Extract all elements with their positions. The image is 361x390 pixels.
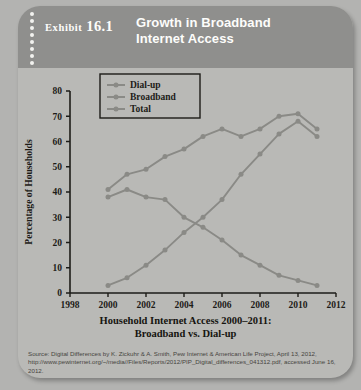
page-title: Growth in Broadband Internet Access <box>136 15 341 47</box>
series-line <box>108 114 317 190</box>
exhibit-label: Exhibit 16.1 <box>45 18 113 35</box>
y-tick-label: 20 <box>53 238 63 248</box>
chart-legend: Dial-upBroadbandTotal <box>100 74 200 118</box>
caption-line-1: Household Internet Access 2000–2011: <box>18 314 353 327</box>
exhibit-header: Exhibit 16.1 Growth in Broadband Interne… <box>18 6 353 68</box>
x-tick-label: 2012 <box>327 300 346 310</box>
exhibit-card: Exhibit 16.1 Growth in Broadband Interne… <box>18 6 353 378</box>
chart-caption: Household Internet Access 2000–2011: Bro… <box>18 314 353 340</box>
legend-marker <box>114 83 119 88</box>
data-point <box>163 248 168 253</box>
data-point <box>277 131 282 136</box>
data-point <box>277 114 282 119</box>
data-point <box>220 238 225 243</box>
legend-label: Dial-up <box>130 80 161 90</box>
data-point <box>163 154 168 159</box>
y-tick-label: 0 <box>57 288 62 298</box>
data-point <box>277 273 282 278</box>
data-point <box>125 172 130 177</box>
data-point <box>125 187 130 192</box>
data-point <box>258 152 263 157</box>
y-tick-label: 10 <box>53 263 63 273</box>
y-tick-label: 40 <box>53 187 63 197</box>
data-point <box>106 187 111 192</box>
y-axis-title: Percentage of Households <box>23 139 34 245</box>
exhibit-word: Exhibit <box>45 22 82 33</box>
x-tick-label: 2000 <box>99 300 118 310</box>
data-point <box>258 263 263 268</box>
series-total <box>106 111 320 192</box>
data-point <box>163 197 168 202</box>
legend-label: Broadband <box>130 92 176 102</box>
data-point <box>125 275 130 280</box>
x-tick-label: 2002 <box>137 300 156 310</box>
dotted-rule-icon <box>30 12 35 64</box>
source-note: Source: Digital Differences by K. Zickuh… <box>28 350 346 375</box>
data-point <box>258 126 263 131</box>
y-tick-label: 30 <box>53 213 63 223</box>
chart-plot-area: 0102030405060708019982000200220042006200… <box>18 68 353 318</box>
data-point <box>201 215 206 220</box>
series-broadband <box>106 119 320 288</box>
x-tick-label: 1998 <box>61 300 80 310</box>
data-point <box>106 283 111 288</box>
exhibit-figure: Exhibit 16.1 Growth in Broadband Interne… <box>0 0 361 390</box>
data-point <box>220 126 225 131</box>
data-point <box>315 126 320 131</box>
y-tick-label: 70 <box>53 112 63 122</box>
data-point <box>106 195 111 200</box>
data-point <box>296 278 301 283</box>
data-point <box>220 197 225 202</box>
y-tick-label: 50 <box>53 162 63 172</box>
y-tick-label: 80 <box>53 86 63 96</box>
data-point <box>182 215 187 220</box>
data-point <box>296 119 301 124</box>
data-point <box>182 147 187 152</box>
x-tick-label: 2010 <box>289 300 308 310</box>
data-point <box>239 134 244 139</box>
series-line <box>108 190 317 286</box>
x-tick-label: 2004 <box>175 300 194 310</box>
series-dial-up <box>106 187 320 288</box>
series-line <box>108 121 317 285</box>
line-chart: 0102030405060708019982000200220042006200… <box>18 68 353 318</box>
x-tick-label: 2008 <box>251 300 270 310</box>
data-point <box>144 167 149 172</box>
data-point <box>201 225 206 230</box>
data-point <box>239 172 244 177</box>
legend-label: Total <box>130 104 151 114</box>
data-point <box>144 263 149 268</box>
data-point <box>182 230 187 235</box>
data-point <box>315 134 320 139</box>
data-point <box>296 111 301 116</box>
exhibit-number: 16.1 <box>86 18 113 34</box>
legend-marker <box>114 107 119 112</box>
data-point <box>201 134 206 139</box>
caption-line-2: Broadband vs. Dial-up <box>18 327 353 340</box>
legend-marker <box>114 95 119 100</box>
data-point <box>144 195 149 200</box>
data-point <box>239 253 244 258</box>
title-line-1: Growth in Broadband <box>136 15 341 31</box>
title-line-2: Internet Access <box>136 31 341 47</box>
y-tick-label: 60 <box>53 137 63 147</box>
x-tick-label: 2006 <box>213 300 232 310</box>
data-point <box>315 283 320 288</box>
